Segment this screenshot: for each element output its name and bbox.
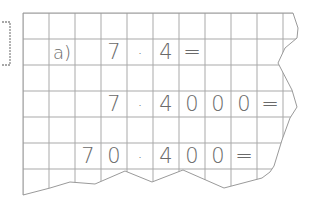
digit-cell: 0 bbox=[185, 92, 198, 116]
equals-sign: = bbox=[235, 144, 253, 168]
digit-cell: 0 bbox=[211, 144, 224, 168]
exercise-label-cell: a) bbox=[53, 42, 71, 63]
digit-cell: 0 bbox=[185, 144, 198, 168]
digit-cell: 0 bbox=[211, 92, 224, 116]
digit-cell: 0 bbox=[107, 144, 120, 168]
equals-sign: = bbox=[183, 40, 201, 64]
digit-cell: 4 bbox=[159, 92, 172, 116]
equals-sign: = bbox=[261, 92, 279, 116]
multiply-dot: · bbox=[137, 44, 142, 63]
digit-cell: 7 bbox=[107, 92, 120, 116]
math-expressions: a)7·4=7·4000=70·400= bbox=[53, 40, 279, 168]
digit-cell: 4 bbox=[159, 144, 172, 168]
multiply-dot: · bbox=[137, 148, 142, 167]
multiply-dot: · bbox=[137, 96, 142, 115]
digit-cell: 7 bbox=[81, 144, 94, 168]
digit-cell: 7 bbox=[107, 40, 120, 64]
worksheet-torn-grid-paper: a)7·4=7·4000=70·400= 7 · 4 = 7 · 4000 = … bbox=[0, 0, 318, 200]
grid-paper-svg: a)7·4=7·4000=70·400= bbox=[0, 0, 318, 200]
task-bracket-icon bbox=[2, 22, 10, 65]
digit-cell: 4 bbox=[159, 40, 172, 64]
digit-cell: 0 bbox=[237, 92, 250, 116]
